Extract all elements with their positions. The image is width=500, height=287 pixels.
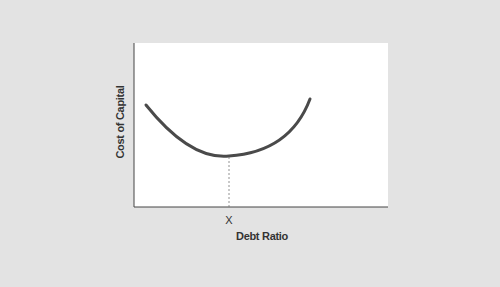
- x-tick-label: X: [225, 214, 232, 226]
- y-axis-label: Cost of Capital: [114, 85, 126, 158]
- cost-curve: [146, 99, 310, 156]
- chart-svg: [0, 0, 500, 287]
- x-axis-label: Debt Ratio: [236, 230, 288, 242]
